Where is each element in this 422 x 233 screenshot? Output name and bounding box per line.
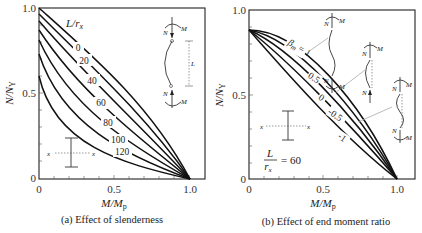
- left-caption: (a) Effect of slenderness: [61, 214, 163, 226]
- right-x-axis-label: M/Mp: [309, 197, 335, 211]
- svg-text:x: x: [306, 123, 311, 131]
- svg-text:M: M: [338, 17, 346, 25]
- right-caption: (b) Effect of end moment ratio: [262, 216, 390, 228]
- svg-text:x: x: [259, 123, 264, 131]
- left-x-ticks: [54, 175, 189, 179]
- svg-text:M: M: [338, 83, 346, 91]
- curve-label-120: 120: [115, 147, 130, 157]
- right-y-tick-1: 1.0: [232, 4, 246, 16]
- left-y-tick-05: 0.5: [22, 87, 36, 99]
- right-i-section-icon: x x: [259, 111, 311, 140]
- svg-text:x: x: [91, 150, 96, 158]
- curve-label-40: 40: [87, 76, 97, 86]
- right-x-ticks: [264, 175, 397, 179]
- curve-label-100: 100: [111, 135, 126, 145]
- svg-text:N: N: [162, 29, 168, 37]
- deflected-column-icon: [165, 41, 172, 85]
- left-i-section-icon: x x: [46, 138, 96, 167]
- svg-text:M: M: [405, 81, 413, 89]
- svg-text:M: M: [405, 134, 413, 142]
- left-column-sketch: N M L N M: [162, 17, 195, 108]
- moment-arrow-icon: [165, 24, 181, 28]
- slenderness-annotation: L rx = 60: [264, 147, 301, 174]
- left-x-axis-label: M/Mp: [100, 197, 126, 211]
- left-x-tick-1: 1.0: [183, 183, 197, 195]
- left-y-axis-label: N/NY: [3, 81, 17, 106]
- svg-text:N: N: [391, 85, 397, 93]
- svg-text:= 60: = 60: [281, 154, 301, 166]
- left-x-tick-05: 0.5: [107, 183, 121, 195]
- svg-text:N: N: [323, 77, 329, 85]
- svg-text:N: N: [391, 127, 397, 135]
- right-y-axis-label: N/NY: [213, 83, 227, 108]
- left-x-tick-0: 0: [36, 183, 42, 195]
- svg-text:N: N: [323, 20, 329, 28]
- figure: 1.0 0.5 0 0 0.5 1.0 M/Mp N/NY L/rx 0 20 …: [0, 0, 422, 233]
- svg-text:L: L: [190, 60, 195, 68]
- right-y-ticks: [249, 27, 253, 163]
- svg-text:x: x: [46, 150, 51, 158]
- left-y-tick-1: 1.0: [22, 2, 36, 14]
- svg-text:M: M: [180, 98, 188, 106]
- svg-text:M: M: [376, 45, 384, 53]
- left-chart: 1.0 0.5 0 0 0.5 1.0 M/Mp N/NY L/rx 0 20 …: [3, 2, 205, 226]
- curve-label-0: 0: [76, 43, 81, 53]
- right-x-tick-05: 0.5: [316, 183, 330, 195]
- sketch-beta-neg1: N M N M: [391, 77, 413, 143]
- svg-text:N: N: [162, 90, 168, 98]
- curve-label-60: 60: [96, 98, 106, 108]
- right-chart: 1.0 0.5 0 0 0.5 1.0 M/Mp N/NY βm = 1 0.5…: [213, 4, 415, 228]
- curve-label-80: 80: [103, 118, 113, 128]
- right-x-tick-0: 0: [246, 183, 252, 195]
- svg-text:rx: rx: [264, 160, 272, 174]
- curve-label-20: 20: [79, 56, 89, 66]
- right-x-tick-1: 1.0: [390, 183, 404, 195]
- svg-text:N: N: [361, 50, 367, 58]
- left-legend-title: L/rx: [65, 17, 83, 31]
- svg-text:N: N: [361, 89, 367, 97]
- right-y-tick-05: 0.5: [232, 89, 246, 101]
- svg-text:L: L: [266, 147, 273, 159]
- svg-text:M: M: [180, 25, 188, 33]
- sketch-beta-0: N M N: [361, 42, 384, 103]
